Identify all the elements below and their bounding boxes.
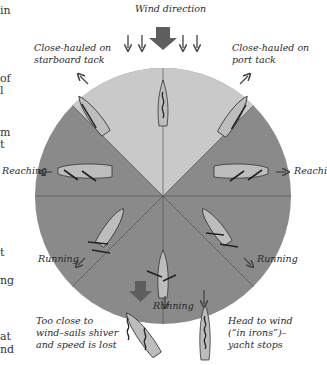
label-head-to-wind: Head to wind(“in irons”)–yacht stops: [228, 315, 293, 351]
big-wind-arrow: [149, 27, 177, 50]
label-running-left: Running: [38, 253, 79, 265]
label-too-close: Too close towind–sails shiverand speed i…: [36, 315, 118, 351]
label-running-right: Running: [257, 253, 298, 265]
label-close-hauled-starboard: Close-hauled onstarboard tack: [34, 42, 111, 66]
label-reaching-right: Reachi: [294, 165, 327, 177]
label-reaching-left: Reaching: [2, 165, 47, 177]
label-close-hauled-port: Close-hauled onport tack: [232, 42, 309, 66]
wind-direction-title: Wind direction: [135, 3, 206, 15]
label-running-bottom: Running: [153, 300, 194, 312]
